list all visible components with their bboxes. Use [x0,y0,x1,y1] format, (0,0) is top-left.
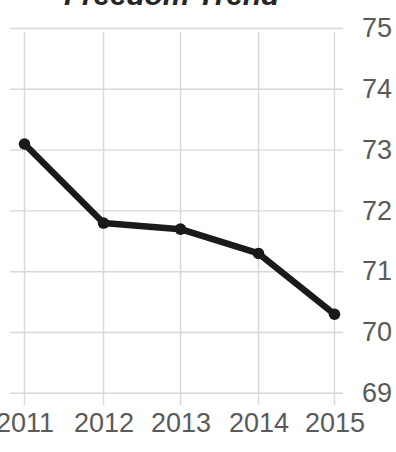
freedom-trend-chart: Freedom Trend [0,0,396,452]
y-tick-label-75: 75 [340,15,392,42]
data-point-markers [19,138,341,320]
chart-svg [0,0,396,452]
x-tick-label-2015: 2015 [290,408,380,438]
data-point-2011 [19,138,31,150]
x-tick-label-2013: 2013 [136,408,226,438]
vertical-gridlines [25,32,335,405]
data-point-2014 [253,248,265,260]
y-tick-label-69: 69 [340,380,392,407]
data-point-2015 [329,308,341,320]
data-point-2013 [175,223,187,235]
data-point-2012 [98,217,110,229]
y-tick-label-73: 73 [340,137,392,164]
y-tick-label-72: 72 [340,198,392,225]
y-tick-label-70: 70 [340,319,392,346]
horizontal-gridlines [10,29,343,394]
plot-area [0,0,396,452]
y-tick-label-71: 71 [340,258,392,285]
y-tick-label-74: 74 [340,76,392,103]
